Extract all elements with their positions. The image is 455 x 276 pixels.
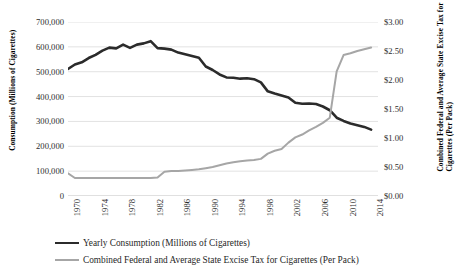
legend-item: Yearly Consumption (Millions of Cigarett…: [0, 234, 445, 251]
left-axis-tick-label: 300,000: [4, 116, 64, 126]
right-axis-tick-label: $1.00: [384, 133, 403, 143]
left-axis-tick-label: 500,000: [4, 67, 64, 77]
dark-line-swatch: [55, 242, 79, 244]
chart-legend: Yearly Consumption (Millions of Cigarett…: [0, 234, 445, 268]
legend-item-label: Combined Federal and Average State Excis…: [83, 255, 359, 265]
x-axis-tick-label: 1982: [155, 199, 165, 216]
left-axis-tick-label: 400,000: [4, 92, 64, 102]
x-axis-tick-label: 1986: [182, 199, 192, 216]
x-axis-tick-label: 2010: [348, 199, 358, 216]
x-axis-tick-label: 2006: [320, 199, 330, 216]
x-axis-tick-labels: 1970197419781982198619901994199820022006…: [68, 199, 378, 233]
chart-svg: [68, 22, 378, 196]
left-axis-tick-label: 600,000: [4, 42, 64, 52]
x-axis-tick-label: 1998: [265, 199, 275, 216]
x-axis-tick-label: 1990: [210, 199, 220, 216]
right-axis-tick-label: $3.00: [384, 17, 403, 27]
left-axis-tick-label: 200,000: [4, 141, 64, 151]
series-line-1: [68, 41, 371, 129]
right-axis-tick-label: $2.00: [384, 75, 403, 85]
right-axis-tick-label: $2.50: [384, 46, 403, 56]
right-axis-tick-label: $1.50: [384, 104, 403, 114]
left-axis-tick-label: 700,000: [4, 17, 64, 27]
plot-area: [68, 22, 378, 196]
right-axis-tick-label: $0.50: [384, 162, 403, 172]
left-axis-tick-label: 100,000: [4, 166, 64, 176]
series-line-2: [68, 48, 371, 179]
x-axis-tick-label: 1978: [127, 199, 137, 216]
gray-line-swatch: [55, 259, 79, 261]
right-axis-tick-label: $0.00: [384, 191, 403, 201]
left-axis-tick-label: 0: [4, 191, 64, 201]
x-axis-tick-label: 1994: [237, 199, 247, 216]
x-axis-tick-label: 2002: [292, 199, 302, 216]
x-axis-tick-label: 1970: [72, 199, 82, 216]
x-axis-tick-label: 2014: [375, 199, 385, 216]
legend-item: Combined Federal and Average State Excis…: [0, 251, 445, 268]
x-axis-tick-label: 1974: [100, 199, 110, 216]
legend-item-label: Yearly Consumption (Millions of Cigarett…: [83, 238, 250, 248]
data-series-layer: [68, 41, 371, 178]
